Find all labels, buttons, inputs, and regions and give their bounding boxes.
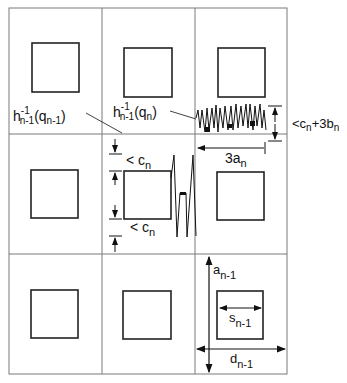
- cell-dimensions: [197, 257, 285, 372]
- square-r3c2: [123, 291, 171, 339]
- square-r3c1: [31, 290, 78, 338]
- vertical-zigzag-block: [180, 192, 186, 195]
- label-3a: 3an: [225, 150, 247, 169]
- label-height-bound: <cn+3bn: [292, 116, 339, 133]
- label-cn-top: < cn: [126, 152, 151, 171]
- square-r1c1: [32, 43, 79, 92]
- square-r3c3: [217, 291, 263, 339]
- label-h-prev: h-1n-1(qn-1): [13, 105, 66, 126]
- square-r2c1: [31, 170, 78, 218]
- label-d-prev: dn-1: [230, 351, 253, 370]
- vertical-zigzag: [171, 155, 196, 237]
- square-r2c3: [217, 172, 264, 220]
- cell-squares: [31, 43, 265, 339]
- square-r1c2: [124, 48, 172, 97]
- label-s-prev: sn-1: [229, 310, 251, 329]
- label-h-curr: h-1n-1(qn): [113, 101, 157, 122]
- grid-diagram: h-1n-1(qn-1) h-1n-1(qn) <cn+3bn 3an < cn…: [0, 0, 347, 383]
- label-a-prev: an-1: [213, 262, 236, 281]
- square-r2c2: [124, 171, 171, 219]
- height-dimension: [268, 106, 282, 141]
- square-r1c3: [218, 48, 265, 97]
- label-cn-bottom: < cn: [130, 219, 155, 238]
- cn-dimensions: [109, 139, 122, 252]
